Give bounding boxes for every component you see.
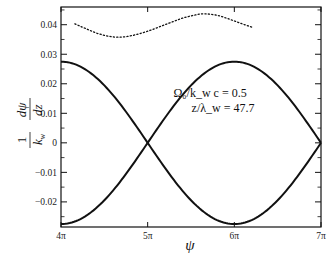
x-tick-label: 6π [230,231,240,241]
plot-frame [61,7,321,227]
svg-text:1dψ: 1dψ [14,102,29,143]
y-tick-label: 0.03 [40,50,57,60]
x-tick-label: 7π [316,231,326,241]
x-tick-label: 5π [143,231,153,241]
chart: 0.040.030.020.010−0.01−0.024π5π6π7π ψ 1d… [0,0,330,261]
y-axis-title: 1dψ kw dz [14,98,48,148]
major-ticks [61,7,321,227]
y-tick-label: 0.04 [40,20,57,30]
series-layer [61,14,321,224]
tick-labels: 0.040.030.020.010−0.01−0.024π5π6π7π [35,20,326,241]
annotation-0: Ω₀/k_w c = 0.5 [173,86,246,100]
annotations: Ω₀/k_w c = 0.5z/λ_w = 47.7 [173,86,254,115]
y-tick-label: 0.02 [40,79,57,89]
x-axis-title: ψ [185,237,195,253]
y-tick-label: −0.01 [35,168,57,178]
x-tick-label: 4π [56,231,66,241]
series-electron-trajectory [75,14,254,37]
y-tick-label: −0.02 [35,197,57,207]
y-tick-label: 0 [52,138,57,148]
annotation-1: z/λ_w = 47.7 [192,101,255,115]
